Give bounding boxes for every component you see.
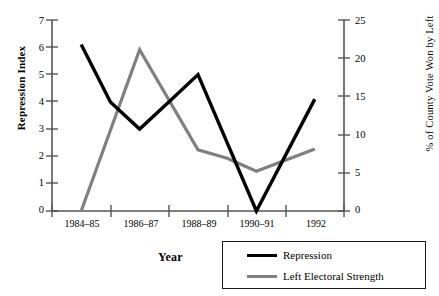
- legend-label-repression: Repression: [283, 249, 332, 261]
- chart-container: Repression Index % of County Vote Won by…: [0, 0, 439, 296]
- legend-label-left-electoral-strength: Left Electoral Strength: [283, 270, 384, 282]
- legend-line-swatch-left-electoral-strength: [247, 275, 277, 278]
- legend-line-swatch-repression: [247, 254, 277, 257]
- legend-item-repression: Repression: [223, 245, 425, 265]
- legend-item-left-electoral-strength: Left Electoral Strength: [223, 266, 425, 286]
- chart-legend: Repression Left Electoral Strength: [222, 241, 426, 289]
- series-line-repression: [81, 45, 315, 211]
